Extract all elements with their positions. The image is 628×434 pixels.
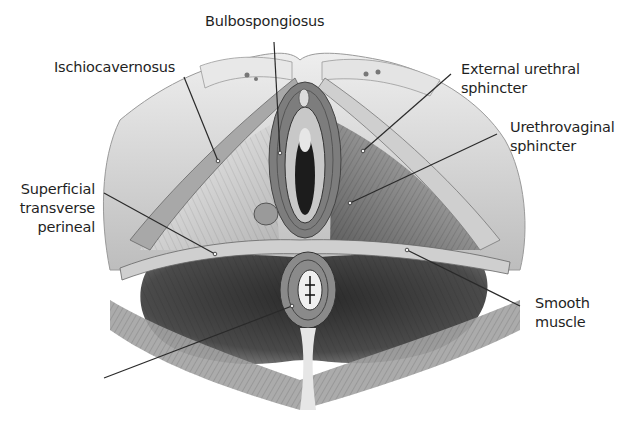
label-external-urethral-sphincter: External urethral sphincter bbox=[461, 60, 580, 98]
label-line: sphincter bbox=[461, 79, 580, 98]
label-superficial-transverse-perineal: Superficial transverse perineal bbox=[14, 180, 95, 237]
label-line: muscle bbox=[535, 313, 590, 332]
label-line: Smooth bbox=[535, 294, 590, 313]
label-line: sphincter bbox=[510, 137, 615, 156]
label-line: perineal bbox=[14, 218, 95, 237]
label-line: External urethral bbox=[461, 60, 580, 79]
label-smooth-muscle: Smooth muscle bbox=[535, 294, 590, 332]
label-line: Ischiocavernosus bbox=[54, 58, 175, 77]
label-line: Bulbospongiosus bbox=[205, 12, 324, 31]
label-line: Urethrovaginal bbox=[510, 118, 615, 137]
label-line: Superficial bbox=[14, 180, 95, 199]
label-urethrovaginal-sphincter: Urethrovaginal sphincter bbox=[510, 118, 615, 156]
label-line: transverse bbox=[14, 199, 95, 218]
label-ischiocavernosus: Ischiocavernosus bbox=[54, 58, 175, 77]
label-bulbospongiosus: Bulbospongiosus bbox=[205, 12, 324, 31]
